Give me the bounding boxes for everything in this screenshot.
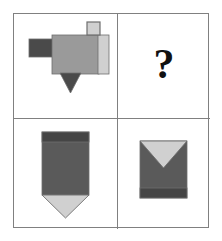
down-triangle [60, 73, 81, 93]
cell-top-left[interactable] [14, 14, 117, 118]
top-band [42, 132, 89, 142]
cell-bottom-left[interactable] [14, 119, 117, 229]
cell-top-right[interactable]: ? [118, 14, 210, 118]
banner-shape-upright [14, 119, 117, 229]
down-triangle [42, 195, 89, 218]
point-strip [98, 35, 109, 74]
banner-shape-inverted [118, 119, 210, 229]
top-square [87, 22, 100, 35]
cell-bottom-right[interactable] [118, 119, 210, 229]
banner-shape-rotated [14, 14, 117, 118]
body [52, 35, 99, 74]
puzzle-frame: ? [13, 13, 209, 228]
question-mark: ? [118, 14, 210, 118]
bottom-band [140, 188, 187, 198]
